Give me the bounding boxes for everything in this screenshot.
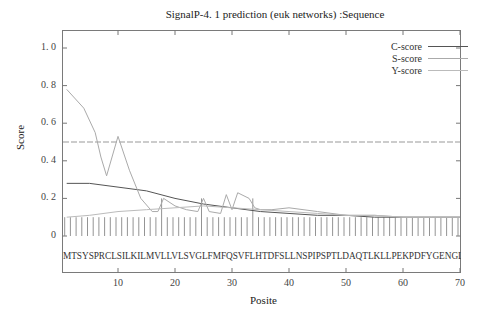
plot-area	[0, 0, 490, 320]
